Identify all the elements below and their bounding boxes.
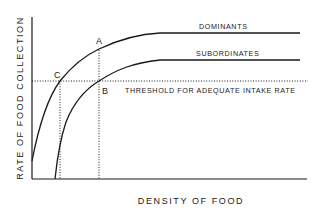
threshold-label: THRESHOLD FOR ADEQUATE INTAKE RATE	[125, 86, 296, 95]
point-c-label: C	[54, 70, 61, 80]
subordinates-label: SUBORDINATES	[196, 49, 259, 58]
point-a-label: A	[96, 36, 102, 46]
y-axis-label: RATE OF FOOD COLLECTION	[15, 16, 25, 180]
point-b-label: B	[102, 86, 108, 96]
x-axis-label: DENSITY OF FOOD	[138, 196, 244, 206]
food-collection-diagram: DOMINANTS SUBORDINATES THRESHOLD FOR ADE…	[0, 0, 321, 214]
dominants-curve	[32, 33, 300, 161]
dominants-label: DOMINANTS	[199, 22, 248, 31]
subordinates-curve	[55, 60, 300, 179]
